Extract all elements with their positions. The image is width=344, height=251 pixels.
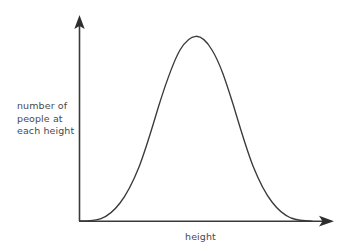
y-axis-label: number of people at each height [17,100,74,138]
x-axis-label: height [79,231,322,244]
bell-curve-icon [80,36,312,221]
figure-canvas: number of people at each height height [0,0,344,251]
